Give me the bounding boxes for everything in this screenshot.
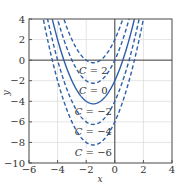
curve-label: C = −4 <box>75 126 112 137</box>
x-tick-label: 4 <box>169 164 175 175</box>
y-tick-label: 4 <box>19 14 25 25</box>
y-tick-label: 2 <box>19 34 25 45</box>
y-axis-label: y <box>1 90 11 97</box>
y-tick-label: −4 <box>10 96 25 107</box>
curve-labels: C = 2C = 0C = −2C = −4C = −6 <box>75 65 112 158</box>
y-tick-label: 0 <box>19 55 25 66</box>
y-tick-label: −8 <box>10 137 25 148</box>
x-axis-label: x <box>97 174 102 184</box>
curve-label: C = −6 <box>75 147 112 158</box>
chart: C = 2C = 0C = −2C = −4C = −6 −6−4−202442… <box>0 0 177 184</box>
x-tick-label: 0 <box>112 164 118 175</box>
curve-label: C = 0 <box>79 85 108 96</box>
x-tick-label: −4 <box>50 164 65 175</box>
curve-label: C = 2 <box>79 65 108 76</box>
y-tick-label: −2 <box>10 75 25 86</box>
x-tick-label: −2 <box>79 164 94 175</box>
x-tick-label: 2 <box>140 164 146 175</box>
y-tick-label: −6 <box>10 116 25 127</box>
y-tick-label: −10 <box>4 158 25 169</box>
curve-label: C = −2 <box>75 106 112 117</box>
